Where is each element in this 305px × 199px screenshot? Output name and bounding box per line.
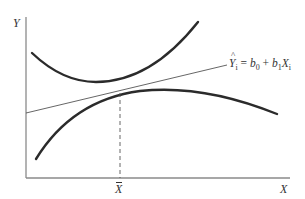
equals-sign: =: [238, 57, 250, 69]
lower-confidence-curve: [36, 90, 277, 159]
overbar: [116, 182, 122, 183]
confidence-band-diagram: [0, 0, 305, 199]
y-hat: ^ Y: [229, 58, 235, 70]
x-subscript: i: [289, 63, 291, 72]
upper-confidence-curve: [32, 22, 198, 82]
y-axis-label: Y: [13, 17, 20, 29]
x-letter: X: [282, 57, 289, 69]
regression-equation: ^ Yi = b0 + b1Xi: [229, 58, 291, 72]
x-mean-label: X: [115, 183, 122, 195]
x-mean-letter: X: [115, 182, 122, 196]
hat-symbol: ^: [231, 51, 235, 60]
plus-sign: +: [260, 57, 272, 69]
x-axis-label: X: [280, 183, 287, 195]
